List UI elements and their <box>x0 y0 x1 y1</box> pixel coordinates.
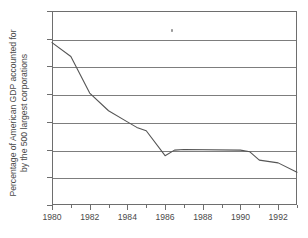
scan-speck-artifact <box>171 29 173 32</box>
line-chart: Percentage of American GDP accounted for… <box>0 0 308 238</box>
series-line <box>52 43 297 173</box>
data-series-layer <box>0 0 308 238</box>
